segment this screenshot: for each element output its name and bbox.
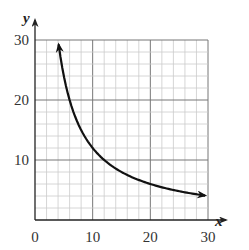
curve-line [59,44,205,195]
x-tick-label: 20 [143,229,158,245]
y-tick-label: 30 [14,32,29,48]
axes [35,20,226,220]
grid [35,40,208,220]
x-tick-label: 30 [201,229,216,245]
chart: 0102030102030 x y [0,0,249,250]
y-axis-label: y [21,10,30,26]
y-tick-label: 20 [14,92,29,108]
x-tick-label: 0 [31,229,39,245]
series [54,42,205,196]
y-tick-label: 10 [14,152,29,168]
x-tick-label: 10 [85,229,100,245]
x-axis-label: x [214,213,223,229]
